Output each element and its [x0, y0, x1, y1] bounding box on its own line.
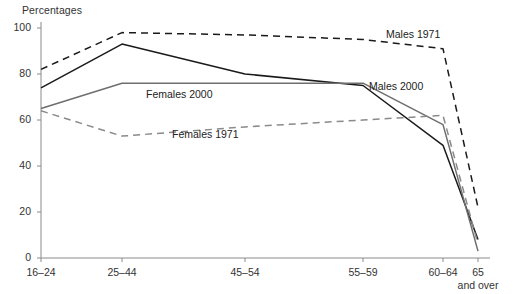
y-tick-label: 100: [5, 21, 31, 33]
y-tick-label: 40: [5, 159, 31, 171]
x-tick-label: 45–54: [205, 266, 285, 278]
series-line: [41, 111, 478, 244]
x-tick-marks: [41, 258, 478, 262]
y-tick-label: 60: [5, 113, 31, 125]
y-tick-label: 20: [5, 205, 31, 217]
line-chart: Percentages 020406080100 16–2425–4445–54…: [0, 0, 516, 294]
series-line: [41, 44, 478, 240]
series-line: [41, 83, 478, 251]
y-tick-marks: [37, 28, 41, 258]
series-label: Females 1971: [172, 128, 239, 140]
x-tick-label: 16–24: [1, 266, 81, 278]
y-tick-label: 0: [5, 251, 31, 263]
chart-canvas: [0, 0, 516, 294]
x-tick-sublabel: and over: [438, 279, 516, 291]
series-label: Males 1971: [386, 28, 440, 40]
series-label: Females 2000: [146, 88, 213, 100]
series-line: [41, 33, 478, 208]
x-tick-label: 55–59: [323, 266, 403, 278]
y-tick-label: 80: [5, 67, 31, 79]
x-tick-label: 65: [438, 266, 516, 278]
chart-axes: [37, 22, 490, 262]
x-tick-label: 25–44: [82, 266, 162, 278]
series-paths: [41, 33, 478, 252]
series-label: Males 2000: [369, 80, 423, 92]
